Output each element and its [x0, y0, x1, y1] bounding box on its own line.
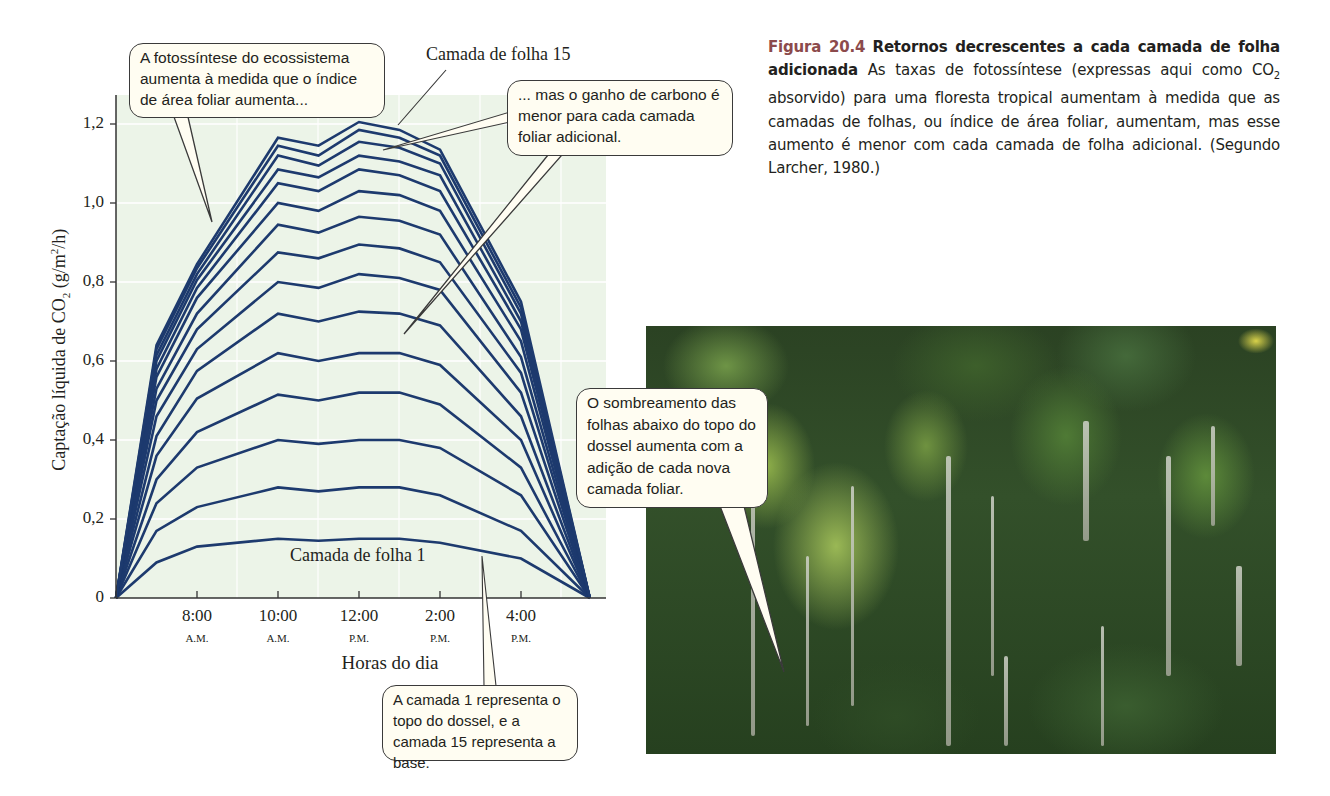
y-tick-label: 1,2 — [64, 113, 104, 133]
x-tick-label: 2:00 — [405, 606, 475, 626]
x-axis-title: Horas do dia — [290, 652, 490, 674]
series-label-layer-1: Camada de folha 1 — [290, 545, 425, 566]
y-axis-title: Captação líquida de CO2 (g/m2/h) — [48, 160, 72, 540]
callout-carbon-gain: ... mas o ganho de carbono é menor para … — [507, 80, 733, 156]
x-tick-label: 4:00 — [486, 606, 556, 626]
figure-number: Figura 20.4 — [768, 38, 865, 56]
x-tick-label: 8:00 — [162, 606, 232, 626]
callout-ecosystem-photosynthesis: A fotossíntese do ecossistema aumenta à … — [129, 43, 385, 118]
callout-layer-meaning: A camada 1 representa o topo do dossel, … — [382, 685, 578, 761]
x-tick-label: 12:00 — [324, 606, 394, 626]
x-tick-sublabel: P.M. — [405, 632, 475, 644]
x-tick-sublabel: A.M. — [162, 632, 232, 644]
y-tick-label: 0 — [64, 587, 104, 607]
callout-shading: O sombreamento das folhas abaixo do topo… — [576, 388, 768, 508]
series-label-layer-15: Camada de folha 15 — [426, 44, 570, 65]
figure-caption: Figura 20.4 Retornos decrescentes a cada… — [768, 36, 1280, 180]
x-tick-label: 10:00 — [243, 606, 313, 626]
x-tick-sublabel: P.M. — [486, 632, 556, 644]
x-tick-sublabel: P.M. — [324, 632, 394, 644]
x-tick-sublabel: A.M. — [243, 632, 313, 644]
